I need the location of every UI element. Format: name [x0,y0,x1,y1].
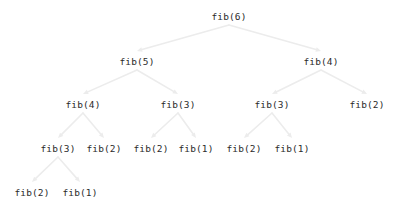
tree-node-n4: fib(3) [161,99,196,110]
tree-node-n0: fib(6) [212,11,247,22]
edge-arrowhead-icon [137,47,143,51]
tree-node-n11: fib(2) [227,143,262,154]
tree-edge [62,113,83,134]
tree-edge [83,113,101,134]
tree-node-n10: fib(1) [179,143,214,154]
tree-edge [272,113,289,134]
tree-node-n13: fib(2) [15,187,50,198]
tree-node-n14: fib(1) [63,187,98,198]
tree-edge [248,113,272,135]
edge-arrowhead-icon [315,47,321,51]
tree-edge [155,113,178,134]
tree-node-n7: fib(3) [41,143,76,154]
edge-layer [0,0,400,211]
tree-edge [321,70,362,92]
tree-node-n12: fib(1) [275,143,310,154]
tree-edge [142,25,229,50]
tree-node-n6: fib(2) [350,99,385,110]
tree-node-n9: fib(2) [134,143,169,154]
tree-node-n5: fib(3) [255,99,290,110]
recursion-tree-diagram: fib(6)fib(5)fib(4)fib(4)fib(3)fib(3)fib(… [0,0,400,211]
tree-edge [229,25,316,50]
tree-edge [36,157,58,178]
tree-edge [137,70,174,91]
tree-edge [178,113,193,134]
tree-edge [58,157,77,178]
tree-edge [277,70,321,92]
tree-node-n2: fib(4) [304,56,339,67]
tree-node-n3: fib(4) [66,99,101,110]
tree-node-n1: fib(5) [120,56,155,67]
tree-node-n8: fib(2) [87,143,122,154]
tree-edge [88,70,137,92]
